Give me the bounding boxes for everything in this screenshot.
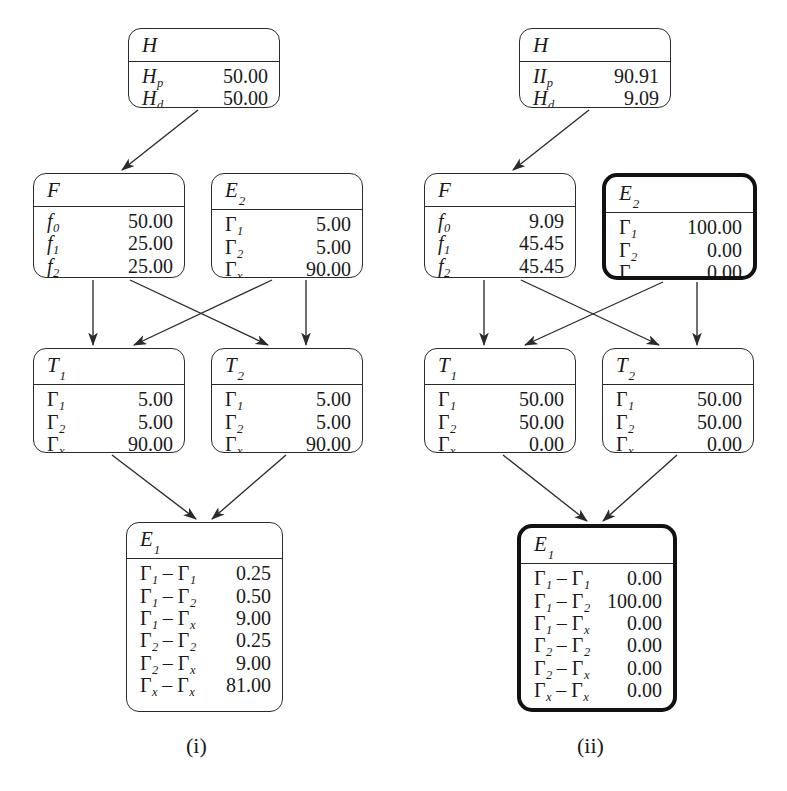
subscript: 1 — [237, 224, 243, 238]
node-row: f050.00 — [47, 210, 173, 232]
subscript: 1 — [59, 399, 65, 413]
row-key: Γ2 — [616, 412, 642, 432]
node-rows: f050.00f125.00f225.00 — [34, 207, 184, 278]
node-row: Γ1 – Γ10.00 — [534, 567, 662, 589]
subscript: 2 — [237, 368, 244, 383]
node-row: f145.45 — [438, 232, 564, 254]
row-key: f1 — [438, 233, 458, 253]
row-value: 0.50 — [236, 586, 271, 606]
row-key: Γ2 – Γ2 — [140, 630, 204, 650]
row-value: 5.00 — [316, 237, 351, 257]
row-key: Γ1 – Γ1 — [140, 563, 204, 583]
node-e1-panel1: E1Γ1 – Γ10.25Γ1 – Γ20.50Γ1 – Γx9.00Γ2 – … — [126, 522, 283, 712]
subscript: 1 — [53, 243, 59, 257]
node-row: Γ25.00 — [47, 411, 173, 433]
subscript: 1 — [154, 542, 161, 557]
row-value: 50.00 — [519, 412, 564, 432]
node-row: Γx0.00 — [616, 433, 742, 453]
node-t2-panel2: T2Γ150.00Γ250.00Γx0.00 — [602, 348, 754, 453]
row-value: 5.00 — [138, 412, 173, 432]
subscript: 1 — [631, 227, 637, 241]
row-value: 90.00 — [306, 434, 351, 453]
node-title: H — [129, 29, 279, 61]
subscript: 1 — [59, 368, 66, 383]
node-rows: Γ15.00Γ25.00Γx90.00 — [212, 210, 362, 278]
subscript: x — [584, 668, 590, 682]
node-title: E2 — [212, 174, 362, 209]
edge-t1-to-e1 — [503, 455, 587, 521]
node-row: Γx – Γx0.00 — [534, 679, 662, 701]
node-rows: f09.09f145.45f245.45 — [425, 207, 575, 278]
row-key: Γx — [225, 259, 250, 278]
row-value: 50.00 — [223, 88, 268, 108]
subscript: 0 — [444, 221, 450, 235]
subscript: 2 — [546, 645, 552, 659]
node-t1-panel1: T1Γ15.00Γ25.00Γx90.00 — [33, 348, 185, 453]
node-t2-panel1: T2Γ15.00Γ25.00Γx90.00 — [211, 348, 363, 453]
row-key: Γ1 — [616, 389, 642, 409]
subscript: 2 — [152, 640, 158, 654]
node-title: T2 — [212, 349, 362, 384]
row-value: 0.00 — [627, 680, 662, 700]
edge-e2-to-t1 — [525, 282, 663, 345]
row-key: Γ1 – Γ2 — [534, 591, 598, 611]
node-row: Γ25.00 — [225, 236, 351, 258]
row-key: Γ1 – Γ2 — [140, 586, 204, 606]
row-key: Γx — [438, 434, 463, 453]
row-value: 0.00 — [707, 434, 742, 453]
panel-caption: (i) — [186, 733, 207, 759]
node-row: f245.45 — [438, 255, 564, 277]
panel-caption: (ii) — [577, 733, 604, 759]
subscript: 2 — [633, 196, 640, 211]
subscript: 2 — [584, 601, 590, 615]
subscript: 2 — [53, 266, 59, 278]
row-key: Γ2 – Γx — [534, 658, 597, 678]
node-rows: IIp90.91Hd9.09 — [520, 62, 670, 108]
subscript: 2 — [631, 250, 637, 264]
row-key: Hd — [142, 88, 171, 108]
node-row: f125.00 — [47, 232, 173, 254]
node-rows: Γ1 – Γ10.00Γ1 – Γ2100.00Γ1 – Γx0.00Γ2 – … — [521, 564, 673, 708]
node-title: F — [425, 174, 575, 206]
row-key: Γ2 — [619, 240, 645, 260]
subscript: 1 — [152, 596, 158, 610]
node-title: T2 — [603, 349, 753, 384]
edge-f-to-t2 — [130, 280, 268, 345]
node-row: f09.09 — [438, 210, 564, 232]
node-title: F — [34, 174, 184, 206]
node-title: T1 — [425, 349, 575, 384]
subscript: 1 — [190, 573, 196, 587]
subscript: 2 — [190, 596, 196, 610]
subscript: 1 — [548, 547, 555, 562]
row-value: 50.00 — [223, 66, 268, 86]
row-key: f1 — [47, 233, 67, 253]
row-key: f0 — [47, 211, 67, 231]
node-row: Γ1 – Γ2100.00 — [534, 590, 662, 612]
row-key: Γ2 – Γx — [140, 653, 203, 673]
row-value: 0.00 — [529, 434, 564, 453]
node-row: Hp50.00 — [142, 65, 268, 87]
subscript: 1 — [546, 623, 552, 637]
subscript: 2 — [237, 422, 243, 436]
node-h-panel2: HIIp90.91Hd9.09 — [519, 28, 671, 108]
row-value: 0.00 — [627, 658, 662, 678]
row-key: Γx — [619, 262, 644, 280]
node-row: Γx0.00 — [438, 433, 564, 453]
subscript: 1 — [584, 578, 590, 592]
row-value: 5.00 — [316, 389, 351, 409]
row-value: 50.00 — [128, 211, 173, 231]
node-rows: Γ150.00Γ250.00Γx0.00 — [425, 385, 575, 453]
subscript: 1 — [546, 601, 552, 615]
node-title: E1 — [127, 523, 282, 558]
node-title: E1 — [521, 528, 673, 563]
node-title: E2 — [606, 177, 753, 212]
subscript: x — [583, 690, 589, 704]
row-key: Γ2 — [225, 412, 251, 432]
row-key: Γ2 — [47, 412, 73, 432]
subscript: 2 — [584, 645, 590, 659]
row-key: Γ2 – Γ2 — [534, 635, 598, 655]
subscript: x — [450, 444, 456, 453]
node-title: T1 — [34, 349, 184, 384]
subscript: 2 — [152, 663, 158, 677]
node-f-panel2: Ff09.09f145.45f245.45 — [424, 173, 576, 278]
